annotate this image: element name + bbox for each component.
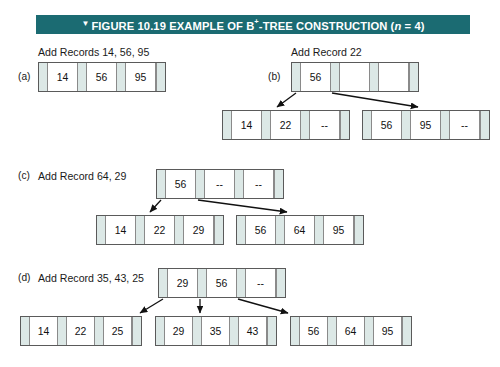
- value-cell: 14: [48, 63, 78, 91]
- pointer-cell: [370, 63, 379, 91]
- step-a-label: (a): [18, 71, 30, 82]
- value-cell: 25: [104, 317, 132, 345]
- step-b-label: (b): [268, 71, 280, 82]
- pointer-cell: [117, 63, 126, 91]
- value-cell: [379, 63, 409, 91]
- step-d-leaf-node-1: 14 22 25: [20, 316, 142, 346]
- step-a-root-node: 14 56 95: [38, 62, 166, 92]
- pointer-cell: [95, 317, 104, 345]
- value-cell: 95: [374, 317, 402, 345]
- step-d-caption: Add Record 35, 43, 25: [38, 272, 144, 284]
- value-cell: 22: [271, 111, 301, 139]
- pointer-cell: [157, 170, 166, 198]
- step-b-caption: Add Record 22: [291, 46, 362, 58]
- value-cell: 43: [239, 317, 267, 345]
- step-c-label: (c): [18, 170, 30, 181]
- step-d-label: (d): [18, 272, 30, 283]
- pointer-cell: [402, 317, 411, 345]
- pointer-cell: [328, 317, 337, 345]
- step-b-label-text: (b): [268, 71, 280, 82]
- pointer-cell: [237, 269, 246, 297]
- value-cell: 56: [166, 170, 196, 198]
- pointer-cell: [301, 111, 310, 139]
- step-d-leaf-node-2: 29 35 43: [155, 316, 277, 346]
- value-cell: 22: [145, 216, 175, 244]
- value-cell: --: [244, 170, 274, 198]
- value-cell: 64: [285, 216, 315, 244]
- value-cell: 56: [300, 317, 328, 345]
- pointer-cell: [193, 317, 202, 345]
- value-cell: --: [205, 170, 235, 198]
- pointer-cell: [480, 111, 489, 139]
- arrow-d-right: [238, 299, 288, 313]
- step-c-caption: Add Record 64, 29: [38, 170, 126, 182]
- pointer-cell: [156, 317, 165, 345]
- value-cell: [340, 63, 370, 91]
- figure-title-bar: ▼ FIGURE 10.19 EXAMPLE OF B+-TREE CONSTR…: [36, 15, 470, 34]
- arrow-c-right: [198, 200, 287, 212]
- value-cell: 14: [232, 111, 262, 139]
- value-cell: 56: [87, 63, 117, 91]
- pointer-cell: [198, 269, 207, 297]
- step-a-caption: Add Records 14, 56, 95: [38, 46, 149, 58]
- step-c-root-node: 56 -- --: [156, 169, 284, 199]
- step-c-leaf-node-1: 14 22 29: [96, 215, 224, 245]
- pointer-cell: [363, 111, 372, 139]
- pointer-cell: [230, 317, 239, 345]
- value-cell: 95: [324, 216, 354, 244]
- value-cell: --: [310, 111, 340, 139]
- value-cell: 95: [411, 111, 441, 139]
- pointer-cell: [441, 111, 450, 139]
- value-cell: 14: [30, 317, 58, 345]
- figure-title-suffix: -TREE CONSTRUCTION (: [259, 19, 395, 31]
- pointer-cell: [274, 170, 283, 198]
- pointer-cell: [136, 216, 145, 244]
- arrow-d-left: [140, 299, 163, 313]
- pointer-cell: [97, 216, 106, 244]
- pointer-cell: [214, 216, 223, 244]
- pointer-cell: [78, 63, 87, 91]
- step-b-root-node: 56: [291, 62, 419, 92]
- value-cell: 56: [207, 269, 237, 297]
- figure-title-end: = 4): [401, 19, 424, 31]
- pointer-cell: [237, 216, 246, 244]
- pointer-cell: [365, 317, 374, 345]
- step-b-leaf-node-1: 14 22 --: [222, 110, 350, 140]
- pointer-cell: [58, 317, 67, 345]
- pointer-cell: [21, 317, 30, 345]
- pointer-cell: [159, 269, 168, 297]
- value-cell: 35: [202, 317, 230, 345]
- pointer-cell: [262, 111, 271, 139]
- pointer-cell: [409, 63, 418, 91]
- pointer-cell: [276, 269, 285, 297]
- arrow-c-left: [150, 200, 161, 212]
- pointer-cell: [331, 63, 340, 91]
- pointer-cell: [291, 317, 300, 345]
- page-title: FIGURE 10.19 EXAMPLE OF B+-TREE CONSTRUC…: [91, 18, 424, 32]
- pointer-cell: [196, 170, 205, 198]
- value-cell: --: [450, 111, 480, 139]
- pointer-cell: [340, 111, 349, 139]
- pointer-cell: [292, 63, 301, 91]
- pointer-cell: [132, 317, 141, 345]
- value-cell: 22: [67, 317, 95, 345]
- step-c-leaf-node-2: 56 64 95: [236, 215, 364, 245]
- pointer-cell: [39, 63, 48, 91]
- pointer-cell: [276, 216, 285, 244]
- arrow-b-left: [277, 93, 296, 107]
- value-cell: 29: [165, 317, 193, 345]
- pointer-cell: [235, 170, 244, 198]
- step-d-root-node: 29 56 --: [158, 268, 286, 298]
- figure-title-marker: ▼: [81, 19, 89, 28]
- pointer-cell: [354, 216, 363, 244]
- value-cell: 56: [246, 216, 276, 244]
- pointer-cell: [223, 111, 232, 139]
- figure-title-superscript: +: [254, 17, 258, 26]
- pointer-cell: [156, 63, 165, 91]
- value-cell: 14: [106, 216, 136, 244]
- step-d-leaf-node-3: 56 64 95: [290, 316, 412, 346]
- pointer-cell: [267, 317, 276, 345]
- pointer-cell: [402, 111, 411, 139]
- value-cell: 95: [126, 63, 156, 91]
- value-cell: 64: [337, 317, 365, 345]
